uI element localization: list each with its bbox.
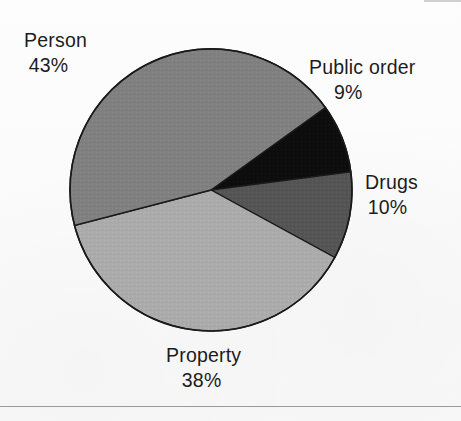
pie-label-property-value: 38% <box>166 368 241 393</box>
scan-edge-artifact <box>424 0 461 2</box>
pie-label-person-name: Person <box>24 28 87 53</box>
pie-label-drugs-value: 10% <box>365 195 418 220</box>
pie-chart-figure: Person 43% Public order 9% Drugs 10% Pro… <box>0 0 461 421</box>
pie-label-public-order: Public order 9% <box>309 55 415 105</box>
pie-label-property-name: Property <box>166 343 241 368</box>
pie-label-public-order-name: Public order <box>309 55 415 80</box>
pie-label-property: Property 38% <box>166 343 241 393</box>
pie-label-public-order-value: 9% <box>309 80 415 105</box>
pie-label-person: Person 43% <box>24 28 87 78</box>
pie-label-drugs-name: Drugs <box>365 170 418 195</box>
bottom-divider-rule <box>0 406 461 407</box>
pie-label-drugs: Drugs 10% <box>365 170 418 220</box>
pie-label-person-value: 43% <box>24 53 87 78</box>
